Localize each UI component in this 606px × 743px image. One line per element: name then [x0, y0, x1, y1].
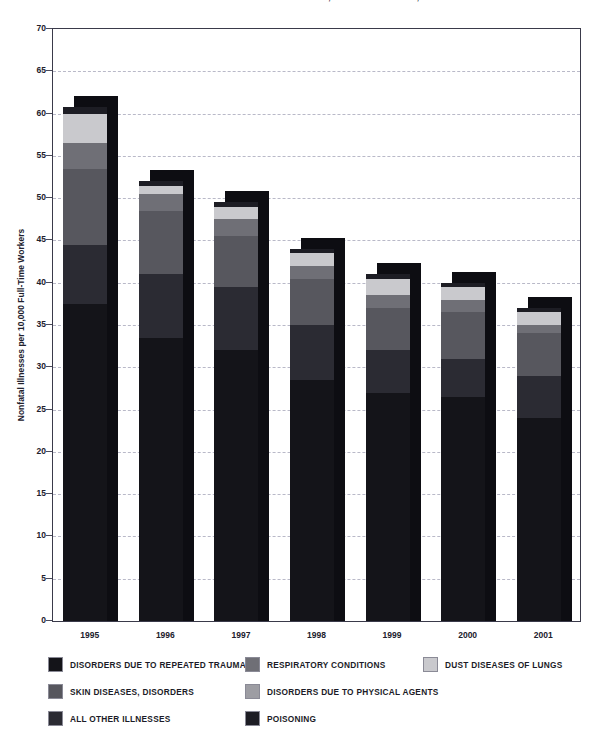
bar-segment[interactable]: [441, 397, 485, 621]
bar-segment[interactable]: [517, 312, 561, 325]
bar-column[interactable]: [517, 27, 572, 621]
bar-segment[interactable]: [366, 295, 410, 308]
bar-segment[interactable]: [290, 266, 334, 279]
bar-segment[interactable]: [366, 350, 410, 392]
y-axis-tick: [46, 324, 52, 325]
legend-item[interactable]: DISORDERS DUE TO PHYSICAL AGENTS: [245, 684, 439, 699]
y-axis-tick-label: 0: [20, 615, 46, 625]
bar-stack: [63, 107, 107, 621]
bar-segment[interactable]: [139, 211, 183, 274]
y-axis-tick: [46, 197, 52, 198]
bar-segment[interactable]: [517, 418, 561, 621]
bar-segment[interactable]: [214, 236, 258, 287]
x-axis-tick-label: 2001: [513, 630, 573, 640]
bar-segment[interactable]: [214, 207, 258, 220]
y-axis-tick: [46, 239, 52, 240]
y-axis-tick-label: 5: [20, 573, 46, 583]
bar-segment[interactable]: [366, 308, 410, 350]
page-title: NONFATAL OCCUPATIONAL ILLNESS INCIDENCE …: [22, 0, 464, 2]
legend-item[interactable]: ALL OTHER ILLNESSES: [48, 711, 170, 726]
legend-item[interactable]: DUST DISEASES OF LUNGS: [423, 657, 563, 672]
bar-segment[interactable]: [517, 325, 561, 333]
legend-label: DUST DISEASES OF LUNGS: [445, 660, 563, 670]
bar-column[interactable]: [290, 27, 345, 621]
bar-segment[interactable]: [63, 114, 107, 144]
y-axis-tick: [46, 282, 52, 283]
legend-swatch-icon: [48, 684, 63, 699]
y-axis-tick: [46, 620, 52, 621]
y-axis-tick: [46, 155, 52, 156]
y-axis-tick: [46, 493, 52, 494]
legend-label: RESPIRATORY CONDITIONS: [267, 660, 386, 670]
bar-segment[interactable]: [441, 300, 485, 313]
bar-segment[interactable]: [63, 304, 107, 621]
bar-stack: [366, 274, 410, 621]
bar-segment[interactable]: [441, 359, 485, 397]
legend-swatch-icon: [48, 657, 63, 672]
bar-column[interactable]: [441, 27, 496, 621]
legend-label: SKIN DISEASES, DISORDERS: [70, 687, 194, 697]
bar-segment[interactable]: [139, 186, 183, 194]
bar-segment[interactable]: [290, 253, 334, 266]
bar-segment[interactable]: [63, 245, 107, 304]
bar-segment[interactable]: [366, 393, 410, 621]
y-axis-tick: [46, 535, 52, 536]
y-axis-tick: [46, 366, 52, 367]
bar-stack: [441, 283, 485, 621]
bar-column[interactable]: [366, 27, 421, 621]
bar-stack: [139, 181, 183, 621]
x-axis-tick-label: 1996: [135, 630, 195, 640]
legend-swatch-icon: [245, 684, 260, 699]
legend-item[interactable]: SKIN DISEASES, DISORDERS: [48, 684, 194, 699]
y-axis-tick: [46, 70, 52, 71]
bar-segment[interactable]: [290, 279, 334, 326]
y-axis-tick-label: 65: [20, 65, 46, 75]
bar-segment[interactable]: [63, 107, 107, 114]
chart-legend: DISORDERS DUE TO REPEATED TRAUMARESPIRAT…: [0, 652, 606, 742]
y-axis-tick-label: 70: [20, 23, 46, 33]
y-axis-tick: [46, 409, 52, 410]
bar-column[interactable]: [139, 27, 194, 621]
bar-segment[interactable]: [214, 219, 258, 236]
y-axis-tick: [46, 113, 52, 114]
bar-segment[interactable]: [214, 350, 258, 621]
x-axis-tick-label: 1999: [362, 630, 422, 640]
bar-stack: [214, 202, 258, 621]
y-axis-tick-label: 10: [20, 530, 46, 540]
x-axis-tick-label: 2000: [438, 630, 498, 640]
legend-item[interactable]: RESPIRATORY CONDITIONS: [245, 657, 386, 672]
bar-segment[interactable]: [441, 287, 485, 300]
y-axis-tick: [46, 578, 52, 579]
bar-segment[interactable]: [290, 380, 334, 621]
x-axis-tick-label: 1995: [60, 630, 120, 640]
bar-segment[interactable]: [290, 325, 334, 380]
bar-segment[interactable]: [63, 143, 107, 168]
legend-item[interactable]: DISORDERS DUE TO REPEATED TRAUMA: [48, 657, 246, 672]
chart-title-strip: NONFATAL OCCUPATIONAL ILLNESS INCIDENCE …: [0, 0, 606, 7]
bar-segment[interactable]: [139, 338, 183, 621]
bar-column[interactable]: [63, 27, 118, 621]
bar-column[interactable]: [214, 27, 269, 621]
legend-swatch-icon: [245, 657, 260, 672]
bar-segment[interactable]: [441, 312, 485, 359]
bar-segment[interactable]: [139, 194, 183, 211]
y-axis-tick: [46, 28, 52, 29]
bar-segment[interactable]: [139, 274, 183, 337]
bar-stack: [517, 308, 561, 621]
y-axis-tick-label: 55: [20, 150, 46, 160]
legend-swatch-icon: [423, 657, 438, 672]
bar-stack: [290, 249, 334, 621]
bar-segment[interactable]: [517, 333, 561, 375]
y-axis-title: Nonfatal Illnesses per 10,000 Full-Time …: [16, 195, 26, 455]
bar-segment[interactable]: [517, 376, 561, 418]
y-axis-tick: [46, 451, 52, 452]
bar-segment[interactable]: [366, 279, 410, 296]
legend-label: ALL OTHER ILLNESSES: [70, 714, 170, 724]
x-axis-tick-label: 1997: [211, 630, 271, 640]
bar-segment[interactable]: [63, 169, 107, 245]
legend-item[interactable]: POISONING: [245, 711, 316, 726]
x-axis-tick-label: 1998: [287, 630, 347, 640]
bar-segment[interactable]: [214, 287, 258, 350]
legend-swatch-icon: [245, 711, 260, 726]
legend-swatch-icon: [48, 711, 63, 726]
